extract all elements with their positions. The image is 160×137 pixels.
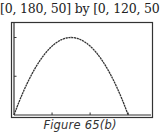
graph-frame [12,23,153,118]
calculator-graph [0,0,160,137]
parabola-curve [14,38,128,116]
figure-caption: Figure 65(b) [0,118,160,132]
